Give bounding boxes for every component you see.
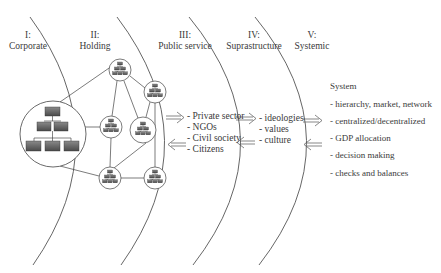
double-arrow-left-icon (168, 139, 186, 150)
zone-label-holding: II: Holding (75, 30, 115, 52)
network-node-b (144, 81, 166, 103)
suprastructure-list: - ideologies - values - culture (259, 113, 304, 146)
list-item: - ideologies (259, 113, 304, 124)
network-node-c (100, 116, 122, 138)
list-item: - centralized/decentralized (330, 116, 425, 127)
zone-numeral: II: (75, 30, 115, 41)
public-service-list: - Private sector - NGOs - Civil society … (187, 111, 245, 155)
diagram-canvas: I: Corporate II: Holding III: Public ser… (0, 0, 441, 273)
zone-label-systemic: V: Systemic (290, 30, 334, 52)
zone-name: Systemic (290, 41, 334, 52)
list-item: - decision making (330, 150, 395, 161)
zone-numeral: V: (290, 30, 334, 41)
zone-name: Suprastructure (217, 41, 291, 52)
network-node-f (144, 167, 166, 189)
list-item: - Citizens (187, 144, 245, 155)
list-item: - GDP allocation (330, 133, 391, 144)
zone-label-suprastructure: IV: Suprastructure (217, 30, 291, 52)
list-item: - values (259, 124, 304, 135)
zone-numeral: I: (8, 30, 48, 41)
double-arrow-right-icon (166, 112, 184, 123)
list-item: - Civil society (187, 133, 245, 144)
list-item: - culture (259, 135, 304, 146)
zone-label-public-service: III: Public service (150, 30, 220, 52)
network-node-d (130, 117, 156, 143)
zone-label-corporate: I: Corporate (8, 30, 48, 52)
corporate-org-circle (20, 101, 86, 167)
zone-numeral: III: (150, 30, 220, 41)
zone-name: Corporate (8, 41, 48, 52)
system-title: System (330, 81, 357, 92)
zone-numeral: IV: (217, 30, 291, 41)
list-item: - Private sector (187, 111, 245, 122)
list-item: - checks and balances (330, 168, 408, 179)
network-node-a (109, 59, 131, 81)
list-item: - hierarchy, market, network (330, 99, 432, 110)
zone-name: Holding (75, 41, 115, 52)
zone-name: Public service (150, 41, 220, 52)
network-node-e (99, 167, 121, 189)
list-item: - NGOs (187, 122, 245, 133)
